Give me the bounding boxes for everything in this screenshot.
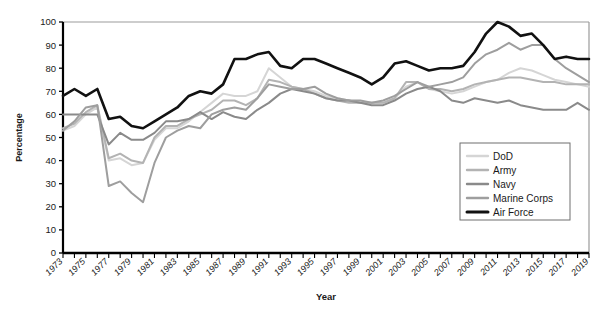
legend-label-army: Army: [493, 165, 516, 176]
y-tick-label: 0: [51, 247, 56, 258]
series-line-air-force: [63, 22, 589, 128]
y-tick-label: 60: [45, 109, 56, 120]
x-axis-title: Year: [316, 291, 336, 302]
x-tick-label: 2013: [500, 256, 522, 278]
x-tick-label: 1985: [180, 256, 202, 278]
x-tick-label: 2017: [546, 256, 569, 279]
x-tick-label: 2015: [523, 256, 546, 279]
line-chart: 0102030405060708090100197319751977197919…: [0, 0, 604, 309]
x-tick-label: 1975: [66, 256, 88, 278]
y-tick-label: 70: [45, 86, 56, 97]
legend-label-air-force: Air Force: [493, 207, 534, 218]
x-tick-label: 1997: [318, 256, 340, 278]
y-tick-label: 100: [40, 16, 56, 27]
x-tick-label: 1987: [203, 256, 225, 278]
chart-container: 0102030405060708090100197319751977197919…: [0, 0, 604, 309]
y-tick-label: 90: [45, 40, 56, 51]
x-tick-label: 2003: [386, 256, 408, 278]
x-tick-label: 2001: [363, 256, 385, 278]
x-tick-label: 2005: [408, 256, 431, 279]
legend-label-navy: Navy: [493, 179, 516, 190]
x-tick-label: 1999: [340, 256, 361, 277]
y-tick-label: 50: [45, 132, 56, 143]
x-tick-label: 2007: [431, 256, 454, 279]
x-tick-label: 1995: [295, 256, 317, 278]
y-tick-label: 10: [45, 224, 56, 235]
legend-label-dod: DoD: [493, 151, 513, 162]
y-tick-label: 20: [45, 201, 56, 212]
y-axis-title: Percentage: [14, 113, 24, 162]
x-tick-label: 1983: [158, 256, 179, 277]
x-tick-label: 2019: [568, 256, 590, 278]
x-tick-label: 1979: [112, 256, 133, 277]
x-tick-label: 1973: [43, 256, 64, 277]
legend-label-marine-corps: Marine Corps: [493, 193, 553, 204]
x-tick-label: 1977: [89, 256, 111, 278]
x-tick-label: 1991: [249, 256, 270, 277]
y-tick-label: 80: [45, 63, 56, 74]
y-tick-label: 40: [45, 155, 56, 166]
x-tick-label: 1993: [272, 256, 293, 277]
x-tick-label: 2011: [477, 256, 498, 277]
y-tick-label: 30: [45, 178, 56, 189]
x-tick-label: 1989: [226, 256, 247, 277]
x-tick-label: 1981: [135, 256, 156, 277]
x-tick-label: 2009: [454, 256, 476, 278]
